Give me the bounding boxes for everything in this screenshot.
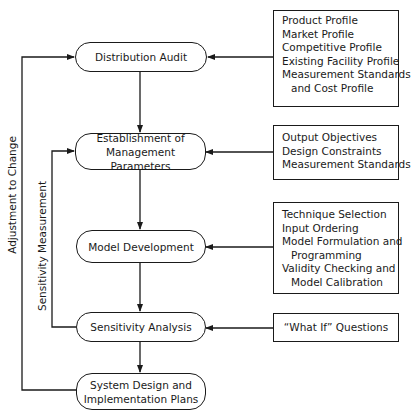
step-label: Implementation Plans	[84, 392, 199, 406]
step-label: Distribution Audit	[95, 50, 187, 64]
step-management-parameters: Establishment of Management Parameters	[75, 133, 206, 170]
step-label: Establishment of	[96, 131, 184, 145]
input-item: Technique Selection	[282, 208, 392, 222]
input-item: Competitive Profile	[282, 41, 392, 55]
input-item: Existing Facility Profile	[282, 55, 392, 69]
input-box-distribution-audit: Product Profile Market Profile Competiti…	[273, 10, 399, 107]
step-label: System Design and	[90, 378, 192, 392]
input-box-model-development: Technique Selection Input Ordering Model…	[273, 202, 399, 294]
input-item: Input Ordering	[282, 222, 392, 236]
step-label: Management Parameters	[76, 145, 205, 173]
input-item: Model Formulation and	[282, 235, 392, 249]
step-sensitivity-analysis: Sensitivity Analysis	[76, 312, 206, 342]
input-item: “What If” Questions	[284, 321, 388, 335]
sensitivity-measurement-label: Sensitivity Measurement	[36, 185, 50, 311]
step-model-development: Model Development	[76, 230, 206, 263]
input-item: Design Constraints	[282, 145, 392, 159]
step-distribution-audit: Distribution Audit	[75, 42, 207, 72]
step-label: Model Development	[88, 240, 194, 254]
input-item: Measurement Standards	[282, 158, 392, 172]
input-item: Measurement Standards	[282, 68, 392, 82]
step-system-design: System Design and Implementation Plans	[76, 373, 206, 410]
step-label: Sensitivity Analysis	[90, 320, 191, 334]
input-item: Output Objectives	[282, 131, 392, 145]
input-box-management-parameters: Output Objectives Design Constraints Mea…	[273, 125, 399, 180]
input-item: and Cost Profile	[282, 82, 392, 96]
input-item: Validity Checking and	[282, 262, 392, 276]
input-item: Market Profile	[282, 28, 392, 42]
input-item: Product Profile	[282, 14, 392, 28]
input-box-sensitivity-analysis: “What If” Questions	[273, 313, 399, 342]
input-item: Programming	[282, 249, 392, 263]
adjustment-to-change-label: Adjustment to Change	[6, 132, 20, 258]
input-item: Model Calibration	[282, 276, 392, 290]
